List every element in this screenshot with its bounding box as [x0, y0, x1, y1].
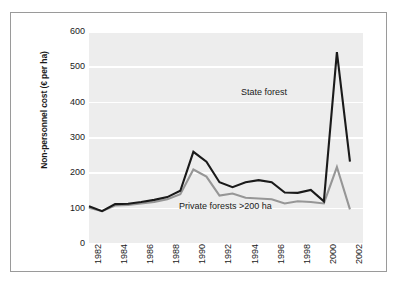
x-tick-label: 1986: [145, 244, 155, 264]
y-tick-label: 300: [55, 132, 85, 142]
annotation-private-forests: Private forests >200 ha: [179, 201, 272, 211]
x-tick-label: 1994: [250, 244, 260, 264]
x-tick-label: 1998: [302, 244, 312, 264]
y-tick-label: 600: [55, 26, 85, 36]
y-tick-label: 400: [55, 97, 85, 107]
x-tick-label: 2002: [354, 244, 364, 264]
x-tick-label: 1996: [276, 244, 286, 264]
x-tick-label: 1992: [223, 244, 233, 264]
x-tick-label: 2000: [328, 244, 338, 264]
y-axis-title: Non-personnel cost (€ per ha): [39, 30, 49, 190]
y-tick-label: 100: [55, 203, 85, 213]
y-tick-label: 0: [55, 238, 85, 248]
series-line-state-forest: [89, 52, 350, 211]
x-tick-label: 1990: [197, 244, 207, 264]
chart-lines: [89, 31, 363, 243]
chart-figure: Non-personnel cost (€ per ha) 0100200300…: [10, 12, 387, 272]
plot-area: Private forests >200 ha State forest: [89, 31, 363, 243]
y-axis-ticks: 0100200300400500600: [51, 31, 85, 243]
y-tick-label: 500: [55, 61, 85, 71]
x-tick-label: 1984: [119, 244, 129, 264]
x-tick-label: 1988: [171, 244, 181, 264]
x-axis-ticks: 1982198419861988199019921994199619982000…: [89, 244, 363, 284]
y-tick-label: 200: [55, 167, 85, 177]
annotation-state-forest: State forest: [241, 87, 287, 97]
x-tick-label: 1982: [93, 244, 103, 264]
